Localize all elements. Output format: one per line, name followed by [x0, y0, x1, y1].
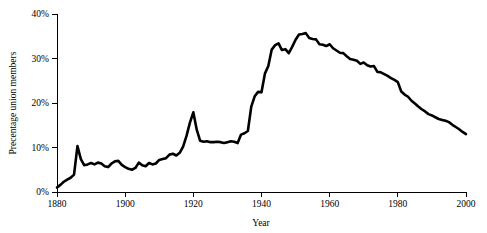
- x-tick-label: 1920: [184, 199, 203, 209]
- y-tick-label: 40%: [32, 9, 50, 19]
- x-tick-label: 1900: [116, 199, 135, 209]
- x-axis-title: Year: [252, 218, 270, 228]
- y-axis-title: Precentage union members: [8, 51, 18, 154]
- data-series-group: [57, 33, 466, 187]
- x-tick-label: 1880: [48, 199, 67, 209]
- y-tick-label: 20%: [32, 98, 50, 108]
- y-axis: 0%10%20%30%40%: [32, 9, 57, 197]
- chart-canvas: 0%10%20%30%40% 1880190019201940196019802…: [0, 0, 487, 233]
- union-membership-chart: 0%10%20%30%40% 1880190019201940196019802…: [0, 0, 487, 233]
- x-tick-label: 2000: [457, 199, 476, 209]
- x-tick-label: 1980: [388, 199, 407, 209]
- x-tick-label: 1940: [252, 199, 271, 209]
- y-tick-label: 0%: [36, 187, 49, 197]
- series-line: [57, 33, 466, 187]
- x-tick-label: 1960: [320, 199, 339, 209]
- y-tick-label: 10%: [32, 143, 50, 153]
- y-tick-label: 30%: [32, 54, 50, 64]
- x-axis: 1880190019201940196019802000: [48, 192, 476, 209]
